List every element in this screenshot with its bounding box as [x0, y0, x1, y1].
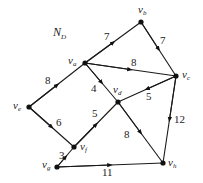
node-va: va	[68, 54, 88, 68]
node-vf: vf	[71, 140, 87, 154]
node-vc: vc	[173, 68, 190, 82]
svg-text:12: 12	[174, 113, 185, 125]
svg-text:5: 5	[92, 107, 98, 119]
svg-text:vb: vb	[138, 3, 147, 17]
svg-text:vf: vf	[80, 140, 88, 154]
edge-va-vc: 8	[85, 56, 176, 76]
node-vh: vh	[160, 156, 176, 170]
svg-text:vg: vg	[42, 158, 51, 172]
node-vg: vg	[42, 158, 60, 172]
svg-text:3: 3	[59, 149, 65, 161]
edge-ve-vf: 6	[29, 107, 74, 147]
svg-text:vh: vh	[168, 156, 177, 170]
directed-graph: ND 7 7 8 8 4 5 6 5	[0, 0, 203, 183]
node-vb: vb	[138, 3, 147, 25]
edge-vg-vf: 3	[57, 147, 74, 167]
edge-ve-va: 8	[29, 63, 85, 107]
svg-text:ve: ve	[13, 99, 21, 113]
graph-title: ND	[52, 25, 66, 41]
edge-vg-vh: 11	[57, 163, 163, 178]
svg-text:5: 5	[146, 90, 152, 102]
svg-text:11: 11	[102, 166, 113, 178]
svg-text:vd: vd	[113, 83, 122, 97]
edge-vc-vh: 12	[163, 76, 185, 163]
svg-text:va: va	[68, 54, 77, 68]
svg-text:4: 4	[91, 82, 97, 94]
edge-vd-vh: 8	[118, 102, 163, 163]
svg-text:7: 7	[160, 34, 166, 46]
svg-text:7: 7	[104, 30, 110, 42]
svg-text:8: 8	[124, 128, 130, 140]
edge-vb-vc: 7	[141, 22, 176, 76]
svg-text:8: 8	[131, 56, 137, 68]
node-ve: ve	[13, 99, 32, 113]
svg-text:8: 8	[45, 74, 51, 86]
edge-vc-vd: 5	[118, 76, 176, 102]
svg-text:6: 6	[56, 116, 62, 128]
svg-text:vc: vc	[182, 68, 191, 82]
